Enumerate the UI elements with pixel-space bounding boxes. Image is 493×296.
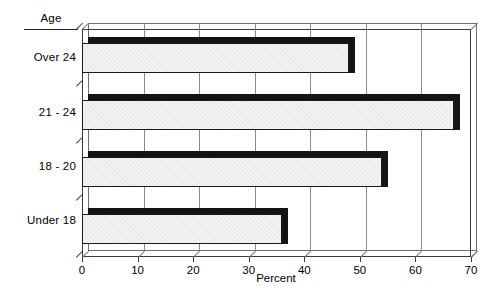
value-tick-depth-70 (471, 251, 478, 258)
gridline-60 (421, 23, 422, 251)
category-label-under-18: Under 18 (0, 214, 76, 226)
value-tick-label-70: 70 (465, 264, 478, 276)
bar-chart: Age Over 24 21 - 24 18 - 20 Under 18 010… (0, 0, 493, 296)
bar-side-face (454, 94, 460, 130)
bar-side-face (282, 208, 288, 244)
value-tick-60 (415, 257, 416, 262)
value-tick-0 (82, 257, 83, 262)
bar-front-face (82, 214, 282, 244)
value-tick-70 (471, 257, 472, 262)
value-tick-10 (138, 257, 139, 262)
value-tick-20 (193, 257, 194, 262)
bar-side-face (382, 151, 388, 187)
value-tick-label-50: 50 (353, 264, 366, 276)
category-label-18-20: 18 - 20 (0, 160, 76, 172)
value-tick-label-0: 0 (79, 264, 85, 276)
value-tick-50 (360, 257, 361, 262)
value-tick-label-40: 40 (298, 264, 311, 276)
value-tick-label-30: 30 (242, 264, 255, 276)
gridline-50 (366, 23, 367, 251)
bar-front-face (82, 157, 382, 187)
category-axis-title: Age (24, 12, 78, 24)
bar-side-face (349, 37, 355, 73)
value-tick-40 (304, 257, 305, 262)
value-tick-label-20: 20 (187, 264, 200, 276)
category-axis-title-underline (24, 29, 78, 30)
value-tick-30 (249, 257, 250, 262)
bar-front-face (82, 100, 454, 130)
value-tick-label-60: 60 (409, 264, 422, 276)
bar-front-face (82, 43, 349, 73)
value-axis-title: Percent (256, 272, 296, 284)
value-tick-label-10: 10 (131, 264, 144, 276)
category-label-over-24: Over 24 (0, 51, 76, 63)
category-label-21-24: 21 - 24 (0, 106, 76, 118)
